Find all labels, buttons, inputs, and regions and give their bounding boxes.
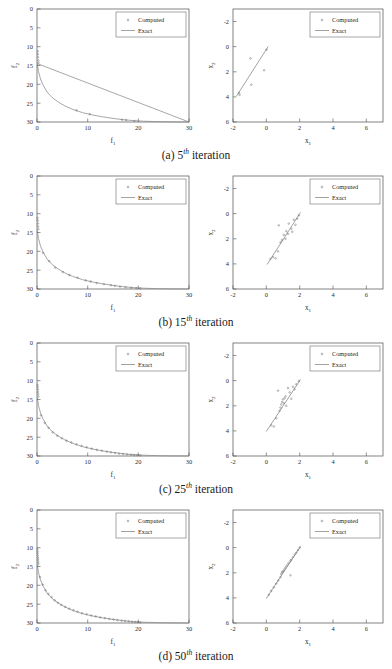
svg-text:f2: f2 [11,397,20,402]
plot-b-right-decision-space: -2 0 2 4 6 6 4 2 0 -2 x1 x2 [200,167,392,315]
exact-curve [37,565,189,623]
svg-text:5: 5 [30,191,33,198]
svg-text:Exact: Exact [332,194,347,201]
svg-text:30: 30 [27,285,33,292]
data-point [37,57,39,59]
svg-text:4: 4 [331,124,335,131]
svg-text:5: 5 [30,525,33,532]
data-point [38,60,40,62]
svg-text:10: 10 [27,544,33,551]
svg-text:0: 0 [226,43,229,50]
caption-c-prefix: (c) 25 [159,483,186,495]
svg-text:Computed: Computed [332,517,359,524]
plot-a-left-objective-space: 0 10 20 30 30 25 20 15 10 5 0 f1 f2 [4,0,200,148]
svg-text:x1: x1 [305,304,312,313]
svg-text:10: 10 [85,458,91,465]
data-point [54,267,56,269]
svg-text:25: 25 [27,601,33,608]
svg-text:f1: f1 [111,638,116,647]
svg-text:-2: -2 [224,18,229,25]
svg-text:20: 20 [27,248,33,255]
data-point [287,387,289,389]
exact-curve [37,64,189,122]
data-point [281,573,283,575]
plot-a-right-axis-titles: x1 x2 [207,62,312,146]
svg-text:10: 10 [27,210,33,217]
svg-text:2: 2 [226,68,229,75]
data-point [286,230,288,232]
data-point [278,225,280,227]
svg-text:30: 30 [186,291,192,298]
exact-line [266,379,300,431]
data-point [282,399,284,401]
svg-text:10: 10 [27,377,33,384]
plot-b-right-data [267,212,300,264]
plot-d-right-data [266,546,300,598]
data-point [37,548,39,550]
svg-text:x1: x1 [305,471,312,480]
plot-c-left-legend: Computed Exact [116,346,186,371]
data-point [38,62,40,64]
svg-text:Computed: Computed [332,16,359,23]
svg-text:30: 30 [27,619,33,626]
svg-text:0: 0 [226,210,229,217]
svg-text:Exact: Exact [332,27,347,34]
svg-text:4: 4 [331,291,335,298]
panel-row-d: 0 10 20 30 30 25 20 15 10 5 0 f1 f2 [0,501,392,668]
plot-a-left-svg: 0 10 20 30 30 25 20 15 10 5 0 f1 f2 [4,0,200,148]
data-point [291,231,293,233]
plot-a-left-legend: Computed Exact [116,12,186,37]
svg-text:10: 10 [85,625,91,632]
data-point [288,223,290,225]
plot-b-left-legend: Computed Exact [116,179,186,204]
svg-text:10: 10 [85,291,91,298]
svg-text:4: 4 [331,458,335,465]
data-point [118,453,120,455]
svg-text:Exact: Exact [138,27,153,34]
data-point [272,256,274,258]
data-point [81,445,83,447]
data-point [37,389,39,391]
plot-c-right-axis-titles: x1 x2 [207,396,312,480]
data-point [37,51,39,53]
svg-text:6: 6 [226,118,229,125]
svg-text:6: 6 [365,458,368,465]
svg-text:20: 20 [135,458,141,465]
caption-c: (c) 25th iteration [0,483,392,495]
data-point [42,252,44,254]
data-point [291,228,293,230]
data-point [37,384,39,386]
data-point [284,568,286,570]
data-point [289,392,291,394]
svg-text:15: 15 [27,229,33,236]
data-point [251,84,253,86]
data-point [37,217,39,219]
data-point [291,398,293,400]
svg-text:4: 4 [226,260,230,267]
data-point [273,426,275,428]
svg-text:-2: -2 [230,458,235,465]
caption-c-suffix: iteration [192,483,233,495]
plot-d-right-decision-space: -2 0 2 4 6 6 4 2 0 -2 x1 x2 [200,501,392,649]
panel-row-c: 0 10 20 30 30 25 20 15 10 5 0 f1 f2 [0,334,392,501]
data-point [140,288,142,290]
plot-b-left-data [37,217,189,289]
data-point [37,555,39,557]
plot-b-right-svg: -2 0 2 4 6 6 4 2 0 -2 x1 x2 [200,167,392,315]
svg-text:20: 20 [135,124,141,131]
exact-curve [37,231,189,289]
svg-text:20: 20 [27,582,33,589]
svg-text:0: 0 [265,625,268,632]
data-point [130,287,132,289]
data-point [140,455,142,457]
data-point [37,223,39,225]
svg-text:4: 4 [226,594,230,601]
svg-text:x1: x1 [305,137,312,146]
figure-container: 0 10 20 30 30 25 20 15 10 5 0 f1 f2 [0,0,392,669]
data-point [286,405,288,407]
data-point [277,390,279,392]
svg-text:-2: -2 [224,519,229,526]
data-point [133,454,135,456]
svg-text:6: 6 [365,291,368,298]
svg-text:0: 0 [30,172,33,179]
